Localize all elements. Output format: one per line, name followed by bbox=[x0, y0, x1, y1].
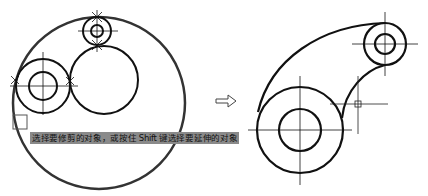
command-prompt-tooltip: 选择要修剪的对象，或按住 Shift 键选择要延伸的对象 bbox=[30, 132, 239, 144]
cad-drawing bbox=[0, 0, 428, 196]
crosshair-cursor[interactable] bbox=[330, 76, 388, 134]
transform-arrow-icon bbox=[216, 95, 236, 107]
middle-circle[interactable] bbox=[70, 46, 138, 114]
lower-arc[interactable] bbox=[342, 65, 385, 118]
right-figure bbox=[257, 23, 406, 173]
